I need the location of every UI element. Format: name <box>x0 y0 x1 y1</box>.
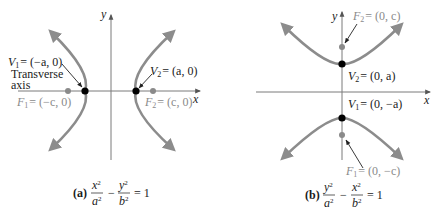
f2-pointer-arrow <box>345 24 357 43</box>
caption-b-tag: (b) <box>305 188 320 202</box>
caption-a-tag: (a) <box>73 186 87 200</box>
f2-label: F2= (0, c) <box>352 9 400 24</box>
caption-b-den1: a2 <box>324 196 334 210</box>
v2-label: V2= (a, 0) <box>150 64 197 79</box>
caption-a-den2: b2 <box>119 194 129 208</box>
hyperbola-figures: V1= (−a, 0) Transverse axis V2= (a, 0) F… <box>0 0 448 215</box>
y-axis-label: y <box>100 7 107 21</box>
caption-b-num2: x2 <box>351 180 361 194</box>
focus-f1-point <box>339 132 345 138</box>
panel-a-horizontal-hyperbola: V1= (−a, 0) Transverse axis V2= (a, 0) F… <box>8 7 200 208</box>
caption-b-rhs: = 1 <box>367 188 383 202</box>
vertex-v1-point <box>338 114 345 121</box>
panel-b-vertical-hyperbola: F2= (0, c) V2= (0, a) V1= (0, −a) F1= (0… <box>256 9 430 210</box>
focus-f2-point <box>339 44 345 50</box>
f1-label: F1= (0, −c) <box>345 164 400 179</box>
vertex-v2-point <box>338 60 345 67</box>
caption-a-den1: a2 <box>92 194 102 208</box>
focus-f1-point <box>65 88 71 94</box>
vertex-v1-point <box>81 87 88 94</box>
v1-pointer-arrow <box>62 64 82 87</box>
v1-label: V1= (0, −a) <box>348 97 402 112</box>
caption-a-minus: − <box>108 186 115 200</box>
caption-b-den2: b2 <box>352 196 362 210</box>
v2-label: V2= (0, a) <box>348 69 395 84</box>
caption-b: (b) y2 a2 − x2 b2 = 1 <box>305 180 383 210</box>
x-axis-label: x <box>423 93 430 107</box>
vertex-v2-point <box>132 87 139 94</box>
caption-a-rhs: = 1 <box>134 186 150 200</box>
caption-b-minus: − <box>340 188 347 202</box>
f1-label: F1= (−c, 0) <box>16 95 71 110</box>
f2-label: F2= (c, 0) <box>144 95 192 110</box>
x-axis-label: x <box>192 92 199 106</box>
caption-a-num1: x2 <box>91 178 101 192</box>
caption-b-num1: y2 <box>323 180 333 194</box>
caption-a: (a) x2 a2 − y2 b2 = 1 <box>73 178 150 208</box>
y-axis-label: y <box>331 9 338 23</box>
transverse-axis-label-2: axis <box>11 78 31 92</box>
focus-f2-point <box>150 88 156 94</box>
caption-a-num2: y2 <box>118 178 128 192</box>
